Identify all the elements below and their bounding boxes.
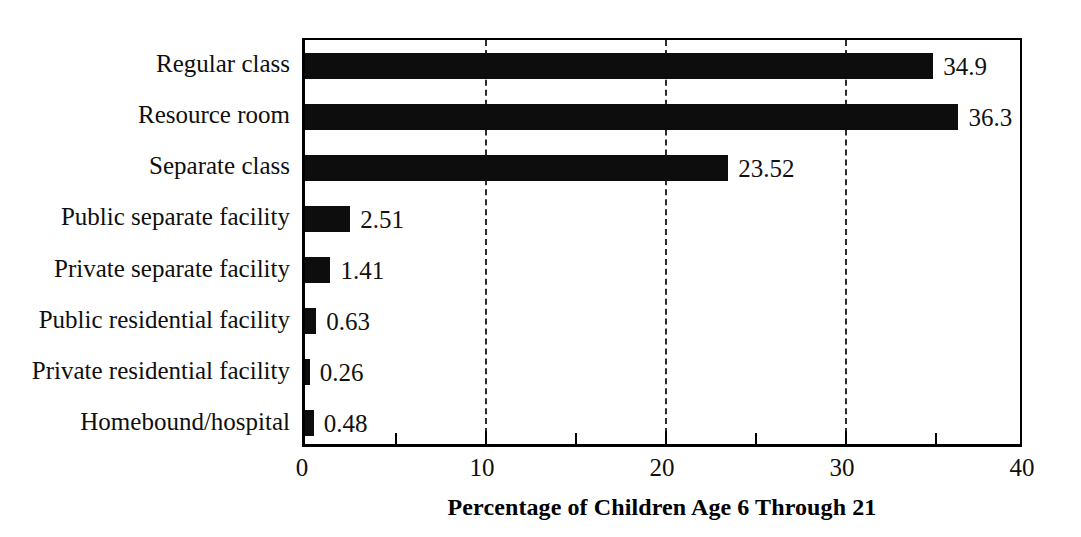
bar-value-label: 0.26 (320, 360, 364, 385)
bar-row: 0.26 (305, 347, 1020, 398)
category-label: Regular class (156, 38, 296, 89)
bar-row: 0.63 (305, 296, 1020, 347)
category-label: Homebound/hospital (80, 396, 296, 447)
category-axis-labels: Regular classResource roomSeparate class… (0, 38, 296, 447)
category-label: Public separate facility (61, 191, 296, 242)
category-label: Resource room (138, 89, 296, 140)
bar-row: 36.3 (305, 91, 1020, 142)
axis-tick (755, 433, 757, 444)
bar-row: 1.41 (305, 245, 1020, 296)
axis-tick (395, 433, 397, 444)
bar[interactable] (305, 53, 933, 79)
axis-tick (575, 433, 577, 444)
bar[interactable] (305, 155, 728, 181)
axis-tick (935, 433, 937, 444)
bar-value-label: 36.3 (968, 104, 1012, 129)
x-axis-tick-labels: 010203040 (302, 452, 1022, 486)
x-tick-label: 30 (830, 452, 855, 484)
bars-layer: 34.936.323.522.511.410.630.260.48 (305, 40, 1020, 444)
category-label: Public residential facility (39, 294, 296, 345)
bar-row: 34.9 (305, 40, 1020, 91)
bar-value-label: 1.41 (340, 258, 384, 283)
axis-tick (485, 431, 487, 444)
bar[interactable] (305, 104, 958, 130)
bar[interactable] (305, 257, 330, 283)
bar-chart: Regular classResource roomSeparate class… (0, 0, 1081, 537)
category-label: Private residential facility (32, 345, 296, 396)
x-tick-label: 0 (296, 452, 309, 484)
category-label: Separate class (149, 140, 296, 191)
x-tick-label: 40 (1010, 452, 1035, 484)
bar-value-label: 23.52 (738, 155, 794, 180)
x-axis-ticks (305, 432, 1020, 444)
bar-value-label: 2.51 (360, 206, 404, 231)
axis-tick (845, 431, 847, 444)
bar[interactable] (305, 206, 350, 232)
x-tick-label: 20 (650, 452, 675, 484)
plot-area: 34.936.323.522.511.410.630.260.48 (302, 38, 1022, 447)
bar-value-label: 0.63 (326, 309, 370, 334)
axis-tick (665, 431, 667, 444)
bar-row: 23.52 (305, 142, 1020, 193)
category-label: Private separate facility (54, 243, 296, 294)
bar[interactable] (305, 308, 316, 334)
bar[interactable] (305, 359, 310, 385)
bar-value-label: 34.9 (943, 53, 987, 78)
bar-row: 2.51 (305, 193, 1020, 244)
x-tick-label: 10 (470, 452, 495, 484)
x-axis-title: Percentage of Children Age 6 Through 21 (302, 494, 1022, 521)
